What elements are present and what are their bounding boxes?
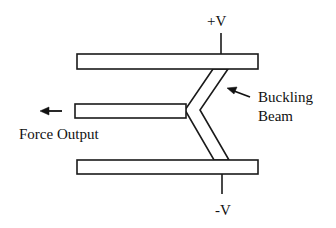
bottom-electrode bbox=[77, 160, 258, 174]
force-arrow-icon bbox=[40, 107, 62, 115]
output-shuttle bbox=[75, 104, 186, 118]
buckling-beam bbox=[185, 69, 229, 160]
force-output-label: Force Output bbox=[19, 126, 99, 142]
buckling-beam-label-line2: Beam bbox=[258, 108, 293, 124]
positive-voltage-label: +V bbox=[207, 13, 226, 29]
top-electrode bbox=[77, 54, 258, 69]
beam-pointer-arrow-icon bbox=[227, 87, 250, 97]
negative-voltage-label: -V bbox=[215, 202, 231, 218]
diagram-canvas: +V -V Force Output Buckling Beam bbox=[0, 0, 336, 228]
buckling-beam-label-line1: Buckling bbox=[258, 89, 313, 105]
